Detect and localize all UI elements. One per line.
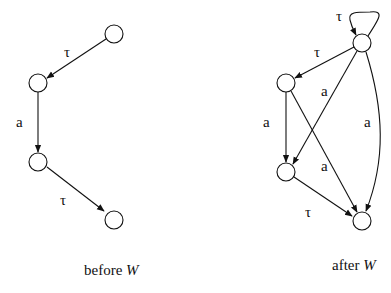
before-diagram: τ a τ before W [16, 25, 140, 278]
after-caption: after W [332, 257, 377, 273]
edge-label-a: a [16, 114, 23, 130]
state-node [29, 153, 47, 171]
state-node [353, 212, 371, 230]
edge-t0-t3 [366, 52, 380, 211]
edge-label-tau: τ [305, 204, 311, 220]
state-node [29, 74, 47, 92]
edge-label-tau: τ [64, 44, 70, 60]
state-node [105, 211, 123, 229]
state-node [277, 163, 295, 181]
edge-s0-s1 [47, 39, 106, 78]
edge-t2-t3 [294, 177, 352, 216]
after-diagram: τ τ a a a a τ after W [263, 8, 380, 273]
state-node [277, 74, 295, 92]
edge-t0-t2 [293, 51, 357, 164]
state-node [353, 34, 371, 52]
edge-label-a: a [321, 83, 328, 99]
edge-label-a: a [263, 114, 270, 130]
edge-label-a: a [364, 114, 371, 130]
edge-label-a: a [321, 158, 328, 174]
edge-label-tau: τ [314, 44, 320, 60]
before-caption: before W [84, 262, 140, 278]
edge-label-tau: τ [60, 192, 66, 208]
edge-t0-self-loop [350, 12, 379, 36]
edge-s2-s3 [47, 167, 104, 211]
edge-label-tau-loop: τ [336, 8, 342, 24]
edge-t0-t1 [295, 47, 354, 78]
diagram-canvas: τ a τ before W τ τ a a a a τ after W [0, 0, 391, 293]
state-node [105, 25, 123, 43]
